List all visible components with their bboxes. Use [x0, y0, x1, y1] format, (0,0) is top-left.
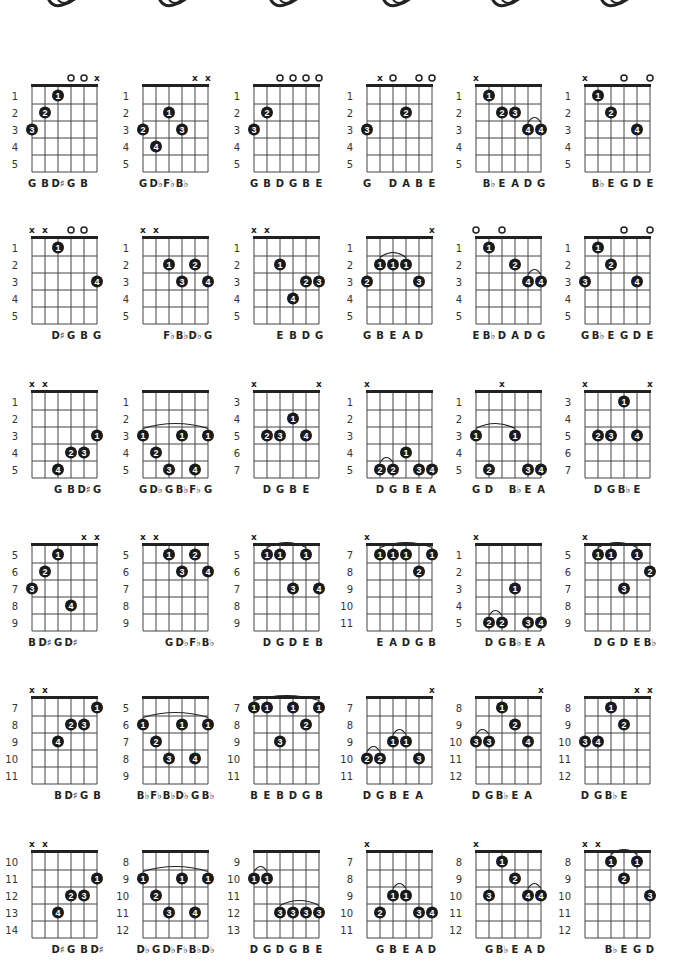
fret-number: 9 [456, 720, 462, 731]
chord-diagram: 12345x123GBD♯GB [12, 73, 100, 189]
nut [584, 696, 651, 699]
note-label: B [80, 944, 88, 955]
note-label: A [511, 330, 519, 341]
fret-number: 12 [558, 925, 571, 936]
fret-number: 4 [456, 601, 462, 612]
chord-diagram: 34567xx1234DGBE [234, 379, 322, 495]
fret-number: 7 [565, 584, 571, 595]
finger-dot: 1 [137, 430, 149, 442]
note-label: G [389, 484, 397, 495]
open-string-icon [68, 227, 74, 233]
barre-arc [528, 270, 541, 275]
finger-dot: 1 [176, 430, 188, 442]
fret-number: 8 [347, 874, 353, 885]
open-string-icon [621, 75, 627, 81]
finger-number: 4 [525, 277, 530, 287]
fret-number: 1 [12, 397, 18, 408]
fret-number: 10 [5, 754, 18, 765]
note-label: E [647, 178, 654, 189]
fret-number: 12 [449, 771, 462, 782]
fret-number: 1 [456, 397, 462, 408]
finger-number: 1 [303, 550, 308, 560]
fret-number: 12 [558, 771, 571, 782]
note-label: G [289, 178, 297, 189]
finger-number: 2 [512, 720, 517, 730]
finger-dot: 2 [300, 276, 312, 288]
note-label: B♭ [176, 484, 189, 495]
note-label: G [204, 484, 212, 495]
finger-number: 4 [429, 465, 434, 475]
note-label: D♭ [201, 944, 214, 955]
finger-dot: 3 [579, 736, 591, 748]
nut [366, 696, 433, 699]
fret-number: 9 [234, 618, 240, 629]
finger-number: 4 [634, 125, 639, 135]
finger-dot: 3 [274, 736, 286, 748]
open-string-icon [303, 75, 309, 81]
nut [253, 543, 320, 546]
fret-number: 9 [565, 720, 571, 731]
finger-number: 1 [390, 891, 395, 901]
note-label: D [402, 637, 410, 648]
finger-dot: 2 [496, 107, 508, 119]
fret-number: 12 [227, 908, 240, 919]
nut [475, 236, 542, 239]
finger-dot: 2 [605, 259, 617, 271]
finger-dot: 4 [535, 276, 547, 288]
finger-number: 1 [595, 91, 600, 101]
note-label: B♭ [189, 944, 202, 955]
finger-dot: 2 [605, 107, 617, 119]
fret-number: 10 [558, 737, 571, 748]
muted-string-icon: x [251, 532, 257, 542]
fret-number: 5 [123, 311, 129, 322]
finger-number: 2 [192, 550, 197, 560]
finger-dot: 1 [496, 856, 508, 868]
chord-diagram: 12345x11123GBEAD [347, 225, 435, 341]
note-label: D♭ [175, 637, 188, 648]
muted-string-icon: x [42, 379, 48, 389]
fret-number: 11 [449, 908, 462, 919]
finger-dot: 3 [274, 907, 286, 919]
note-label: E [316, 178, 323, 189]
note-label: D [633, 178, 641, 189]
chord-diagrams: 12345x123GBD♯GB12345xx1234GD♭F♭B♭1234523… [5, 73, 656, 955]
finger-dot: 4 [426, 464, 438, 476]
finger-number: 1 [55, 91, 60, 101]
finger-dot: 4 [535, 124, 547, 136]
open-string-icon [647, 75, 653, 81]
finger-dot: 1 [387, 890, 399, 902]
fret-number: 2 [565, 108, 571, 119]
finger-dot: 1 [605, 856, 617, 868]
note-label: D♯ [64, 637, 77, 648]
note-label: G [276, 484, 284, 495]
chord-diagram: 910111213113333DGDGBE [227, 850, 325, 955]
fret-number: 1 [123, 243, 129, 254]
nut [31, 84, 98, 87]
nut [475, 696, 542, 699]
note-label: B [428, 637, 436, 648]
finger-number: 1 [277, 260, 282, 270]
finger-dot: 2 [483, 617, 495, 629]
muted-string-icon: x [647, 685, 653, 695]
finger-number: 3 [179, 125, 184, 135]
finger-number: 4 [192, 908, 197, 918]
fret-number: 8 [234, 601, 240, 612]
note-label: B [376, 330, 384, 341]
finger-dot: 1 [261, 873, 273, 885]
chord-sheet: 12345x123GBD♯GB12345xx1234GD♭F♭B♭1234523… [0, 0, 685, 971]
finger-number: 2 [608, 260, 613, 270]
chord-diagram: 12345xx1234GD♭F♭B♭ [123, 73, 211, 189]
nut [366, 390, 433, 393]
fret-number: 12 [5, 891, 18, 902]
note-label: B [315, 790, 323, 801]
note-label: D [276, 178, 284, 189]
finger-dot: 2 [65, 890, 77, 902]
note-label: G [363, 178, 371, 189]
fret-number: 2 [12, 414, 18, 425]
muted-string-icon: x [582, 532, 588, 542]
finger-dot: 2 [483, 464, 495, 476]
barre-arc [143, 424, 208, 429]
note-label: D [485, 637, 493, 648]
fret-number: 3 [456, 125, 462, 136]
fret-number: 2 [123, 414, 129, 425]
